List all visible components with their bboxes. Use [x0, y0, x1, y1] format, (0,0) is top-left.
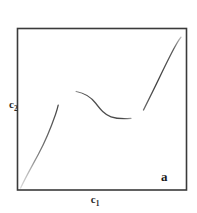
x-axis-label-sub: 1 — [96, 199, 100, 208]
plot-frame — [18, 29, 187, 191]
curve-middle-branch — [76, 92, 131, 119]
curve-right-branch — [144, 37, 182, 110]
figure-panel: c2 c1 a — [0, 0, 197, 213]
curve-left-branch — [21, 105, 59, 188]
y-axis-label-sub: 2 — [14, 104, 18, 113]
x-axis-label: c1 — [91, 193, 100, 205]
panel-label: a — [161, 169, 168, 185]
y-axis-label: c2 — [9, 98, 18, 110]
